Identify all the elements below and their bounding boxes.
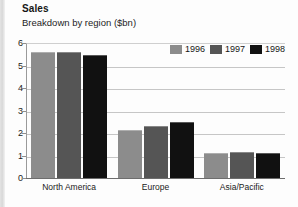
chart-legend: 199619971998 xyxy=(170,44,285,54)
legend-swatch-1996 xyxy=(170,45,182,54)
y-axis-tick-mark xyxy=(22,178,26,179)
legend-item-1998[interactable]: 1998 xyxy=(250,44,285,54)
y-axis-tick-label: 1 xyxy=(3,151,23,161)
legend-swatch-1997 xyxy=(210,45,222,54)
legend-item-1997[interactable]: 1997 xyxy=(210,44,245,54)
bar-group xyxy=(118,43,194,178)
bar-1996-north-america[interactable] xyxy=(31,52,55,178)
bar-1998-asia-pacific[interactable] xyxy=(256,153,280,178)
bar-1998-north-america[interactable] xyxy=(83,55,107,178)
legend-item-1996[interactable]: 1996 xyxy=(170,44,205,54)
x-axis-line xyxy=(26,178,285,179)
bar-1997-north-america[interactable] xyxy=(57,52,81,178)
bars-layer xyxy=(26,43,285,178)
legend-label-1998: 1998 xyxy=(265,44,285,54)
bar-group xyxy=(204,43,280,178)
y-axis-tick-label: 5 xyxy=(3,61,23,71)
y-axis-tick-label: 0 xyxy=(3,173,23,183)
bar-1997-europe[interactable] xyxy=(144,126,168,178)
y-axis-tick-label: 4 xyxy=(3,83,23,93)
bar-group xyxy=(31,43,107,178)
bar-1997-asia-pacific[interactable] xyxy=(230,152,254,178)
x-axis-category-label: Asia/Pacific xyxy=(199,182,285,192)
bar-1996-asia-pacific[interactable] xyxy=(204,153,228,178)
y-axis-tick-label: 3 xyxy=(3,106,23,116)
legend-label-1997: 1997 xyxy=(225,44,245,54)
y-axis-tick-label: 2 xyxy=(3,128,23,138)
chart-subtitle: Breakdown by region ($bn) xyxy=(22,17,136,28)
sales-bar-chart: Sales Breakdown by region ($bn) 0123456 … xyxy=(0,0,298,207)
y-axis-tick-label: 6 xyxy=(3,38,23,48)
chart-title: Sales xyxy=(22,3,49,14)
bar-1998-europe[interactable] xyxy=(170,122,194,178)
x-axis-category-label: North America xyxy=(26,182,112,192)
legend-swatch-1998 xyxy=(250,45,262,54)
x-axis-category-label: Europe xyxy=(112,182,198,192)
bar-1996-europe[interactable] xyxy=(118,130,142,178)
y-axis: 0123456 xyxy=(0,43,23,178)
legend-label-1996: 1996 xyxy=(185,44,205,54)
